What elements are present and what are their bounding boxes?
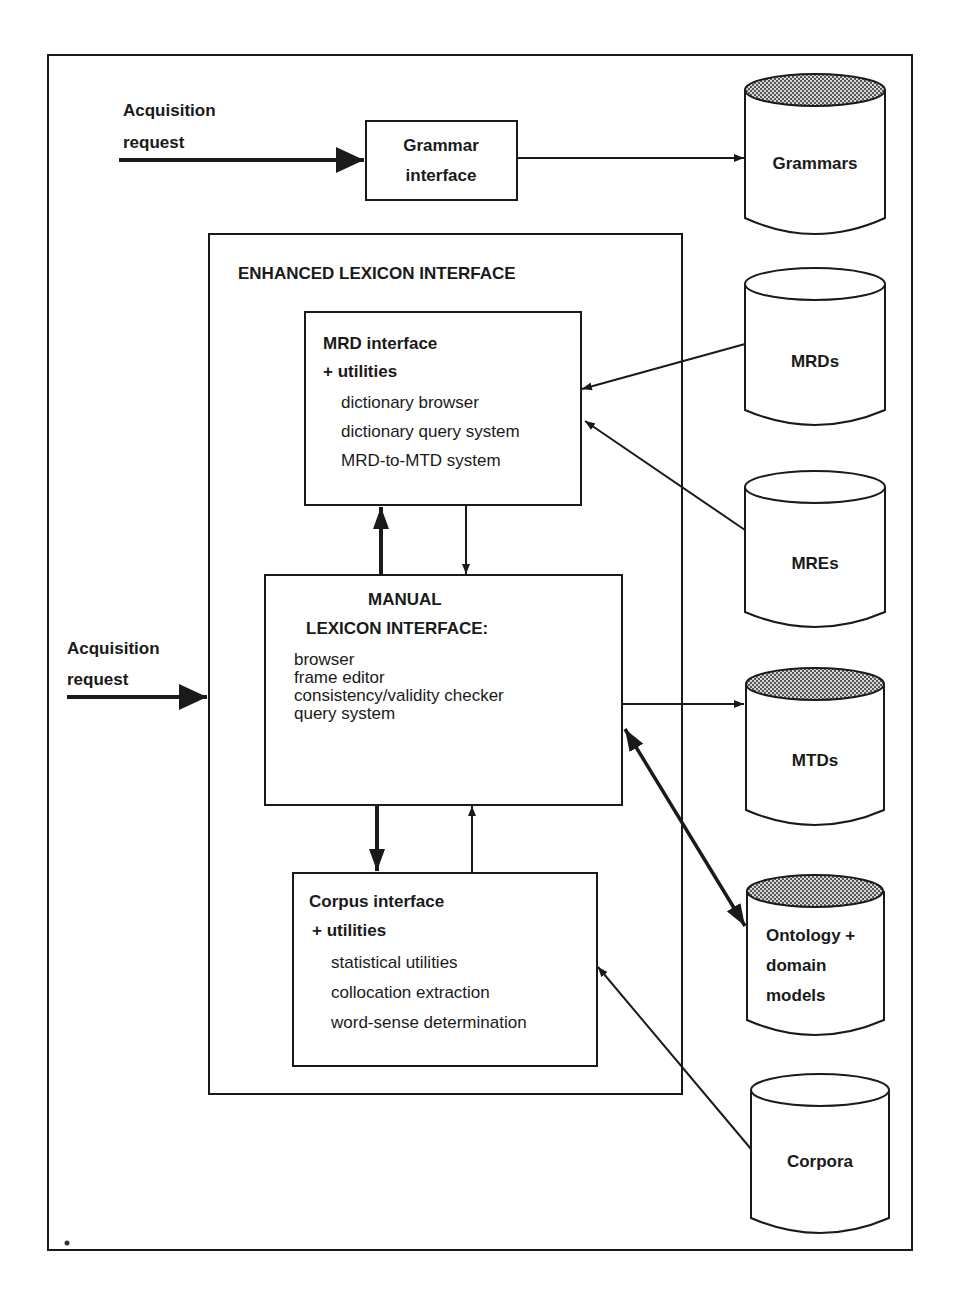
mrds-cylinder-icon bbox=[745, 268, 885, 425]
mrds-label: MRDs bbox=[791, 353, 839, 370]
corpus-interface-content: Corpus interface + utilities statistical… bbox=[309, 893, 527, 1031]
ontology-line3: models bbox=[766, 987, 855, 1004]
mrd-item: MRD-to-MTD system bbox=[341, 452, 520, 469]
mtds-label: MTDs bbox=[792, 752, 838, 769]
acquisition-top-line2: request bbox=[123, 134, 216, 151]
arrow-mrds-to-mrd-interface bbox=[582, 344, 745, 389]
mrd-item: dictionary query system bbox=[341, 423, 520, 440]
corpus-item: word-sense determination bbox=[331, 1014, 527, 1031]
mres-cylinder-icon bbox=[745, 471, 885, 627]
mtds-cylinder-icon bbox=[746, 668, 884, 825]
manual-item: browser bbox=[294, 651, 504, 668]
arrow-corpora-to-corpus-interface bbox=[598, 967, 751, 1149]
manual-item: query system bbox=[294, 705, 504, 722]
ontology-line2: domain bbox=[766, 957, 855, 974]
arrow-mres-to-mrd-interface bbox=[585, 421, 745, 530]
corpus-interface-title1: Corpus interface bbox=[309, 893, 527, 910]
grammar-interface-line1: Grammar bbox=[403, 137, 479, 154]
enhanced-lexicon-title: ENHANCED LEXICON INTERFACE bbox=[238, 265, 516, 282]
arrow-manual-ontology-bidirectional bbox=[625, 729, 745, 926]
manual-lexicon-content: MANUAL LEXICON INTERFACE: browser frame … bbox=[294, 591, 504, 722]
corpus-item: statistical utilities bbox=[331, 954, 527, 971]
corpus-interface-title2: + utilities bbox=[312, 922, 527, 939]
corpora-label: Corpora bbox=[787, 1153, 853, 1170]
acquisition-left-line2: request bbox=[67, 671, 160, 688]
manual-lexicon-title2: LEXICON INTERFACE: bbox=[306, 620, 504, 637]
ontology-line1: Ontology + bbox=[766, 927, 855, 944]
mrd-interface-title2: + utilities bbox=[323, 363, 520, 380]
ontology-label: Ontology + domain models bbox=[766, 927, 855, 1004]
acquisition-request-left-label: Acquisition request bbox=[67, 640, 160, 688]
manual-item: consistency/validity checker bbox=[294, 687, 504, 704]
manual-lexicon-title1: MANUAL bbox=[368, 591, 504, 608]
mrd-item: dictionary browser bbox=[341, 394, 520, 411]
mrd-interface-content: MRD interface + utilities dictionary bro… bbox=[323, 335, 520, 469]
grammars-label: Grammars bbox=[772, 155, 857, 172]
scan-speck bbox=[65, 1241, 70, 1246]
corpus-item: collocation extraction bbox=[331, 984, 527, 1001]
acquisition-left-line1: Acquisition bbox=[67, 640, 160, 657]
grammar-interface-label: Grammar interface bbox=[403, 137, 479, 184]
acquisition-top-line1: Acquisition bbox=[123, 102, 216, 119]
acquisition-request-top-label: Acquisition request bbox=[123, 102, 216, 151]
grammar-interface-line2: interface bbox=[403, 167, 479, 184]
mrd-interface-title1: MRD interface bbox=[323, 335, 520, 352]
database-cylinders bbox=[745, 74, 889, 1233]
mres-label: MREs bbox=[791, 555, 838, 572]
manual-item: frame editor bbox=[294, 669, 504, 686]
